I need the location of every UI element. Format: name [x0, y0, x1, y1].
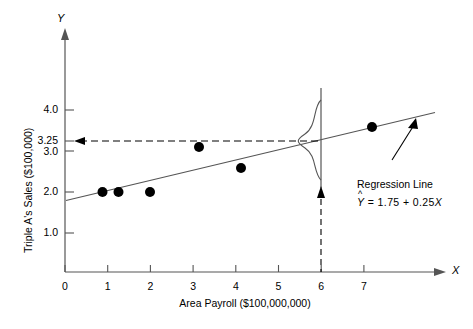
y-axis-name: Y [57, 12, 64, 24]
y-hat-symbol: ^ Y [357, 196, 364, 208]
x-tick-label-5: 5 [269, 281, 289, 292]
x-tick-label-4: 4 [226, 281, 246, 292]
x-tick-label-0: 0 [55, 281, 75, 292]
y-tick-label-4-0: 4.0 [18, 104, 58, 115]
data-point [98, 187, 108, 197]
x-tick-label-1: 1 [98, 281, 118, 292]
chart-container: Y X 4.0 3.25 3.0 2.0 1.0 0 1 2 3 4 5 6 7… [0, 0, 473, 329]
y-axis [61, 28, 69, 272]
data-point [194, 142, 204, 152]
regression-equation-body: = 1.75 + 0.25 [364, 196, 434, 208]
x-tick-label-6: 6 [311, 281, 331, 292]
x-axis [65, 268, 446, 276]
data-point [145, 187, 155, 197]
x-tick-label-7: 7 [354, 281, 374, 292]
data-point [367, 122, 377, 132]
hat-accent-icon: ^ [357, 190, 363, 199]
data-point [236, 163, 246, 173]
regression-pointer-arrow [392, 118, 418, 160]
x-tick-label-3: 3 [183, 281, 203, 292]
y-axis-ticks [65, 110, 74, 233]
data-point [114, 187, 124, 197]
regression-equation-variable: X [435, 196, 442, 208]
x-axis-title: Area Payroll ($100,000,000) [125, 297, 365, 309]
x-tick-label-2: 2 [140, 281, 160, 292]
x-axis-name: X [452, 264, 459, 276]
y-axis-title: Triple A's Sales ($100,000) [22, 128, 34, 253]
regression-line-label: Regression Line [357, 178, 433, 190]
regression-equation: ^ Y = 1.75 + 0.25X [357, 196, 442, 208]
x-axis-ticks [65, 265, 364, 272]
